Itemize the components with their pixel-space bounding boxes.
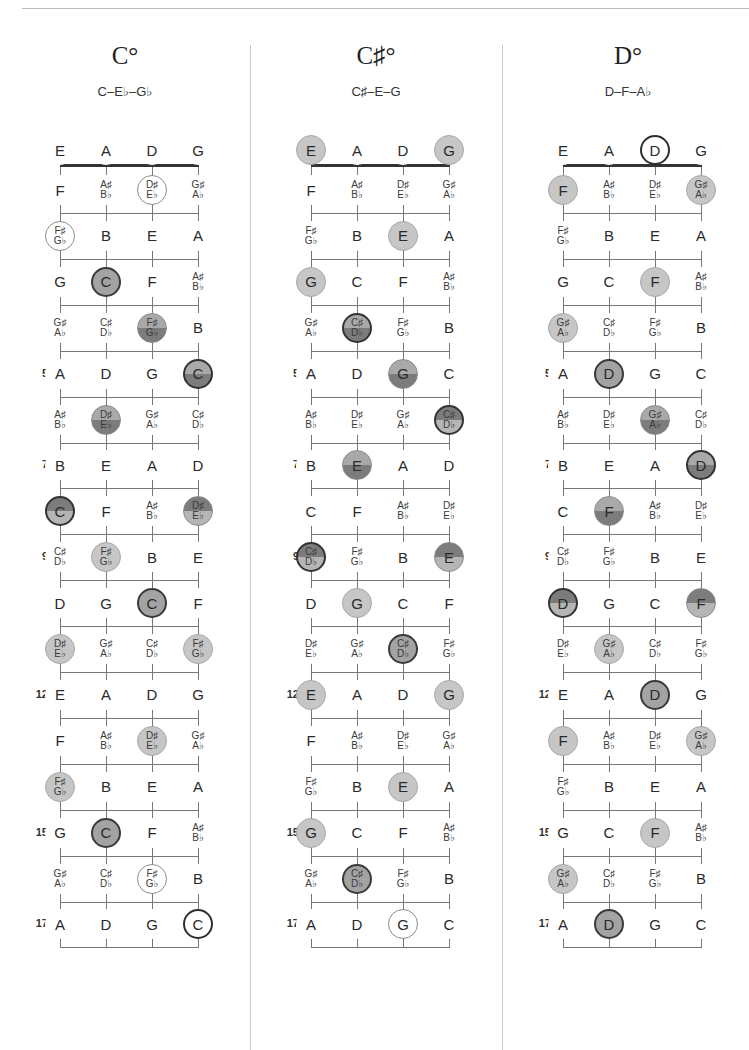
fret-line: [563, 764, 702, 765]
chord-tone-marker[interactable]: D: [594, 909, 624, 939]
note-position: E: [183, 542, 213, 572]
note-label: D: [193, 458, 204, 473]
note-label: B: [352, 779, 362, 794]
chord-tone-marker[interactable]: C♯D♭: [434, 405, 464, 435]
chord-tone-marker[interactable]: C: [183, 909, 213, 939]
chord-tone-marker[interactable]: F: [640, 818, 670, 848]
chord-tone-marker[interactable]: C: [137, 588, 167, 618]
chord-tone-marker[interactable]: C: [183, 359, 213, 389]
note-position: G♯A♭: [342, 634, 372, 664]
note-position: F♯G♭: [388, 313, 418, 343]
chord-tone-marker[interactable]: D♯E♭: [91, 405, 121, 435]
chord-tone-marker[interactable]: F♯G♭: [45, 772, 75, 802]
note-label: E♭: [305, 649, 316, 659]
fret-line: [311, 305, 450, 306]
chord-tone-marker[interactable]: F: [548, 726, 578, 756]
chord-tone-marker[interactable]: F: [686, 588, 716, 618]
chord-tone-marker[interactable]: G: [342, 588, 372, 618]
chord-tone-marker[interactable]: D: [640, 680, 670, 710]
note-position: E: [594, 450, 624, 480]
note-position: E: [45, 135, 75, 165]
fret-line: [60, 718, 199, 719]
note-position: C♯D♭: [91, 864, 121, 894]
chord-tone-marker[interactable]: G: [388, 359, 418, 389]
note-label: G♯: [146, 410, 159, 420]
note-position: E: [137, 772, 167, 802]
note-label: C: [193, 366, 204, 381]
chord-tone-marker[interactable]: C♯D♭: [388, 634, 418, 664]
chord-tone-marker[interactable]: F♯G♭: [137, 313, 167, 343]
chord-tone-marker[interactable]: E: [296, 135, 326, 165]
chord-tone-marker[interactable]: F♯G♭: [91, 542, 121, 572]
chord-tone-marker[interactable]: E: [388, 221, 418, 251]
chord-tone-marker[interactable]: E: [388, 772, 418, 802]
note-label: B♭: [695, 282, 706, 292]
chord-tone-marker[interactable]: G: [296, 267, 326, 297]
chord-tone-marker[interactable]: G♯A♭: [686, 175, 716, 205]
chord-tone-marker[interactable]: F: [640, 267, 670, 297]
chord-tone-marker[interactable]: D: [548, 588, 578, 618]
note-label: D: [398, 687, 409, 702]
chord-tone-marker[interactable]: G: [296, 818, 326, 848]
chord-tone-marker[interactable]: F♯G♭: [183, 634, 213, 664]
note-label: G: [397, 366, 409, 381]
note-label: C: [306, 504, 317, 519]
chord-tone-marker[interactable]: C♯D♭: [342, 864, 372, 894]
chord-tone-marker[interactable]: D♯E♭: [45, 634, 75, 664]
note-label: C: [696, 366, 707, 381]
note-position: B: [548, 450, 578, 480]
note-position: A♯B♭: [183, 267, 213, 297]
chord-tone-marker[interactable]: E: [434, 542, 464, 572]
chord-tone-marker[interactable]: D: [594, 359, 624, 389]
chord-tone-marker[interactable]: F♯G♭: [137, 864, 167, 894]
chord-tone-marker[interactable]: G♯A♭: [594, 634, 624, 664]
note-label: G: [603, 596, 615, 611]
fret-line: [563, 213, 702, 214]
chord-tone-marker[interactable]: C: [91, 267, 121, 297]
note-position: D: [137, 680, 167, 710]
chord-tone-marker[interactable]: D: [686, 450, 716, 480]
note-position: A: [640, 450, 670, 480]
note-position: F♯G♭: [342, 542, 372, 572]
note-label: G♭: [54, 236, 67, 246]
chord-tone-marker[interactable]: D♯E♭: [137, 726, 167, 756]
note-position: B: [45, 450, 75, 480]
chord-tone-marker[interactable]: D♯E♭: [137, 175, 167, 205]
chord-tone-marker[interactable]: F♯G♭: [45, 221, 75, 251]
note-position: D: [45, 588, 75, 618]
chord-tone-marker[interactable]: G♯A♭: [686, 726, 716, 756]
note-position: G: [45, 267, 75, 297]
note-label: G: [146, 366, 158, 381]
chord-tone-marker[interactable]: E: [342, 450, 372, 480]
note-label: G♭: [695, 649, 708, 659]
chord-tone-marker[interactable]: G: [388, 909, 418, 939]
note-position: B: [388, 542, 418, 572]
chord-tone-marker[interactable]: D: [640, 135, 670, 165]
note-label: B♭: [351, 190, 362, 200]
chord-tone-marker[interactable]: G♯A♭: [548, 864, 578, 894]
note-position: F: [434, 588, 464, 618]
chord-tone-marker[interactable]: F: [548, 175, 578, 205]
note-label: C: [193, 917, 204, 932]
chord-tone-marker[interactable]: C: [91, 818, 121, 848]
chord-tone-marker[interactable]: F: [594, 496, 624, 526]
note-label: C: [696, 917, 707, 932]
chord-tone-marker[interactable]: E: [296, 680, 326, 710]
fret-line: [60, 305, 199, 306]
chord-tone-marker[interactable]: G♯A♭: [640, 405, 670, 435]
chord-tone-marker[interactable]: C♯D♭: [296, 542, 326, 572]
chord-tone-marker[interactable]: D♯E♭: [183, 496, 213, 526]
fret-line: [311, 626, 450, 627]
chord-tone-marker[interactable]: C: [45, 496, 75, 526]
note-position: F: [296, 726, 326, 756]
chord-tone-marker[interactable]: G♯A♭: [548, 313, 578, 343]
chord-tone-marker[interactable]: C♯D♭: [342, 313, 372, 343]
chord-tone-marker[interactable]: G: [434, 680, 464, 710]
note-label: D: [306, 596, 317, 611]
chord-tone-marker[interactable]: G: [434, 135, 464, 165]
note-label: E: [147, 779, 157, 794]
note-label: F♯: [649, 869, 660, 879]
note-position: D: [91, 359, 121, 389]
note-label: D♭: [54, 557, 66, 567]
note-position: F: [388, 267, 418, 297]
